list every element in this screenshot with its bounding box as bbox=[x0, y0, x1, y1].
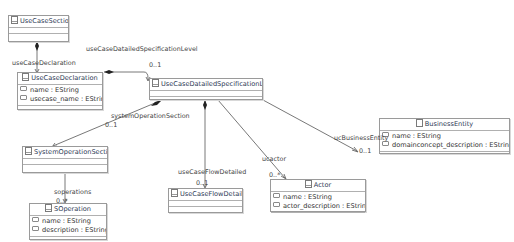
edge-label-business-entity: ucBusinessEntity bbox=[334, 134, 388, 142]
attribute-label: name : EString bbox=[42, 217, 91, 225]
attribute-row[interactable]: domainconcept_description : EString bbox=[380, 141, 509, 150]
attribute-icon bbox=[32, 217, 39, 222]
class-icon bbox=[171, 189, 178, 197]
attribute-label: name : EString bbox=[30, 86, 79, 94]
attribute-row[interactable]: name : EString bbox=[18, 86, 102, 95]
edge-mult-actor: 0..* bbox=[269, 171, 280, 179]
attribute-label: domainconcept_description : EString bbox=[392, 141, 509, 149]
edge-mult-business-entity: 0..1 bbox=[359, 147, 371, 155]
attributes-compartment: name : EString actor_description : EStri… bbox=[271, 192, 365, 213]
class-icon bbox=[152, 79, 159, 87]
class-header: SOperation bbox=[30, 204, 106, 216]
attribute-icon bbox=[32, 226, 39, 231]
edge-mult-detailed-spec: 0..1 bbox=[149, 61, 161, 69]
class-header: BusinessEntity bbox=[380, 119, 509, 131]
class-usecase-section[interactable]: UseCaseSection bbox=[8, 15, 69, 42]
class-header: Actor bbox=[271, 180, 365, 192]
class-soperation[interactable]: SOperation name : EString description : … bbox=[29, 203, 107, 240]
class-name: UseCaseDeclaration bbox=[31, 74, 97, 82]
attribute-icon bbox=[273, 202, 280, 207]
class-header: UseCaseFlowDetailed bbox=[169, 189, 242, 201]
edge-label-actor: ucactor bbox=[262, 155, 286, 163]
class-icon bbox=[305, 180, 312, 188]
class-name: UseCaseSection bbox=[20, 17, 68, 25]
attribute-label: usecase_name : EString bbox=[30, 95, 102, 103]
edge-actor bbox=[218, 100, 285, 178]
class-icon bbox=[25, 147, 32, 155]
class-icon bbox=[11, 16, 18, 24]
edge-mult-soperations: 0..* bbox=[56, 197, 67, 205]
class-icon bbox=[416, 119, 423, 127]
attribute-row[interactable]: actor_description : EString bbox=[271, 202, 365, 211]
class-icon bbox=[22, 73, 29, 81]
class-business-entity[interactable]: BusinessEntity name : EString domainconc… bbox=[379, 118, 510, 154]
attribute-label: name : EString bbox=[392, 132, 441, 140]
attributes-compartment: name : EString domainconcept_description… bbox=[380, 131, 509, 152]
class-name: SOperation bbox=[54, 205, 91, 213]
class-header: UseCaseDeclaration bbox=[18, 73, 102, 85]
attributes-compartment: name : EString description : EString bbox=[30, 216, 106, 237]
class-name: UseCaseFlowDetailed bbox=[180, 190, 242, 198]
diamond-icon bbox=[203, 100, 207, 110]
attribute-label: name : EString bbox=[283, 193, 332, 201]
attribute-icon bbox=[20, 95, 27, 100]
class-usecase-detailed-spec-level[interactable]: UseCaseDatailedSpecificationLevel bbox=[149, 78, 263, 100]
class-name: BusinessEntity bbox=[425, 120, 473, 128]
attribute-row[interactable]: usecase_name : EString bbox=[18, 95, 102, 104]
class-header: SystemOperationSection bbox=[23, 147, 107, 159]
attribute-row[interactable]: description : EString bbox=[30, 226, 106, 235]
edge-label-flow-detailed: useCaseFlowDetailed bbox=[178, 168, 246, 176]
diamond-icon bbox=[35, 41, 39, 51]
class-icon bbox=[45, 204, 52, 212]
class-name: Actor bbox=[314, 181, 331, 189]
attributes-compartment: name : EString usecase_name : EString bbox=[18, 85, 102, 106]
diamond-icon bbox=[104, 70, 114, 74]
class-header: UseCaseDatailedSpecificationLevel bbox=[150, 79, 262, 91]
attribute-row[interactable]: name : EString bbox=[30, 217, 106, 226]
attribute-label: actor_description : EString bbox=[283, 202, 365, 210]
class-name: SystemOperationSection bbox=[34, 148, 107, 156]
class-name: UseCaseDatailedSpecificationLevel bbox=[161, 80, 262, 88]
attribute-row[interactable]: name : EString bbox=[271, 193, 365, 202]
edge-label-sysop-section: systemOperationSection bbox=[111, 112, 190, 120]
attributes-compartment bbox=[169, 201, 242, 207]
attributes-compartment bbox=[9, 28, 68, 34]
class-usecase-declaration[interactable]: UseCaseDeclaration name : EString usecas… bbox=[17, 72, 103, 110]
class-system-operation-section[interactable]: SystemOperationSection bbox=[22, 146, 108, 173]
attribute-label: description : EString bbox=[42, 226, 106, 234]
class-header: UseCaseSection bbox=[9, 16, 68, 28]
attributes-compartment bbox=[150, 91, 262, 97]
class-usecase-flow-detailed[interactable]: UseCaseFlowDetailed bbox=[168, 188, 243, 213]
edge-label-soperations: soperations bbox=[54, 188, 91, 196]
edge-mult-sysop-section: 0..1 bbox=[105, 121, 117, 129]
attribute-icon bbox=[20, 86, 27, 91]
diamond-icon bbox=[151, 100, 162, 106]
attribute-icon bbox=[273, 193, 280, 198]
attributes-compartment bbox=[23, 159, 107, 165]
edge-business-entity bbox=[263, 100, 357, 151]
edge-label-usecase-declaration: useCaseDeclaration bbox=[12, 59, 76, 67]
edge-mult-flow-detailed: 0..1 bbox=[196, 179, 208, 187]
edge-label-detailed-spec: useCaseDatailedSpecificationLevel bbox=[86, 45, 198, 53]
attribute-row[interactable]: name : EString bbox=[380, 132, 509, 141]
class-actor[interactable]: Actor name : EString actor_description :… bbox=[270, 179, 366, 212]
